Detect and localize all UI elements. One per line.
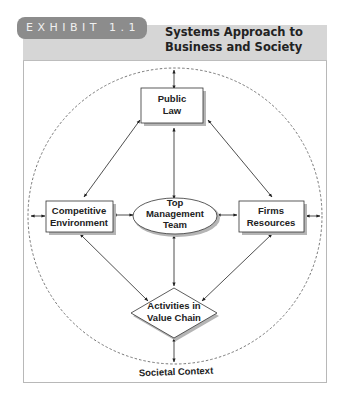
edge-publiclaw-firms	[208, 120, 272, 197]
svg-text:Activities inValue Chain: Activities inValue Chain	[147, 300, 201, 323]
node-competitive-environment: CompetitiveEnvironment	[46, 201, 116, 235]
node-firms-resources: FirmsResources	[239, 201, 307, 235]
edge-competitive-valuechain	[80, 234, 148, 301]
node-top-management-team: TopManagementTeam	[133, 197, 220, 237]
svg-text:CompetitiveEnvironment: CompetitiveEnvironment	[50, 205, 109, 228]
node-activities-value-chain: Activities inValue Chain	[131, 288, 219, 341]
systems-diagram: PublicLaw CompetitiveEnvironment TopMana…	[0, 0, 340, 403]
edge-firms-valuechain	[202, 234, 272, 301]
societal-context-label: Societal Context	[139, 365, 215, 379]
node-public-law: PublicLaw	[141, 88, 206, 126]
edge-publiclaw-competitive	[84, 120, 140, 197]
